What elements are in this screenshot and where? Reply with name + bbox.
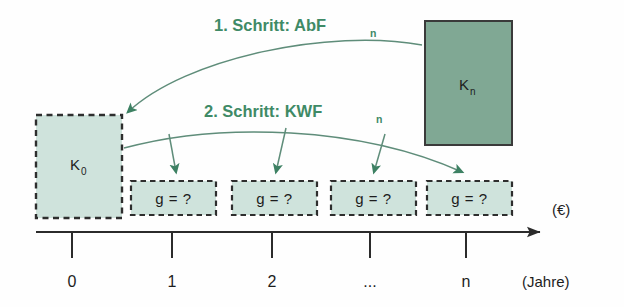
g4-label: g = ? — [451, 190, 487, 207]
tick-label-0: 0 — [68, 273, 77, 290]
step2-label: 2. Schritt: KWF — [204, 102, 322, 120]
step2-label-group: 2. Schritt: KWF n — [204, 102, 382, 125]
step2-branch-arrow-g1 — [169, 134, 176, 172]
diagram-root: K n K 0 g = ? g = ? g = ? g = ? — [0, 0, 624, 307]
g2-label: g = ? — [256, 190, 292, 207]
tick-label-2: 2 — [268, 273, 277, 290]
payment-box-g4: g = ? — [427, 181, 512, 215]
step1-label-group: 1. Schritt: AbF n — [214, 16, 376, 39]
value-axis-unit-label: (€) — [552, 201, 570, 218]
payment-box-g3: g = ? — [331, 181, 416, 215]
tick-label-n: n — [462, 273, 471, 290]
k0-subscript: 0 — [81, 166, 87, 177]
tick-label-1: 1 — [168, 273, 177, 290]
kn-label: K — [459, 76, 469, 93]
tick-label-dots: ... — [363, 273, 376, 290]
g3-label: g = ? — [355, 190, 391, 207]
step2-branch-arrow-g2 — [276, 128, 286, 172]
step1-subscript: n — [370, 27, 376, 39]
kn-subscript: n — [470, 86, 476, 97]
step1-label: 1. Schritt: AbF — [214, 16, 326, 34]
step2-branch-arrow-g3 — [374, 134, 385, 172]
payment-box-g1: g = ? — [131, 181, 216, 215]
g1-label: g = ? — [155, 190, 191, 207]
step2-subscript: n — [376, 113, 382, 125]
capital-box-kn: K n — [425, 21, 512, 145]
payment-box-g2: g = ? — [232, 181, 317, 215]
time-axis-unit-label: (Jahre) — [522, 273, 570, 290]
capital-box-k0: K 0 — [36, 115, 122, 218]
k0-label: K — [70, 156, 80, 173]
diagram-canvas: K n K 0 g = ? g = ? g = ? g = ? — [0, 0, 624, 307]
